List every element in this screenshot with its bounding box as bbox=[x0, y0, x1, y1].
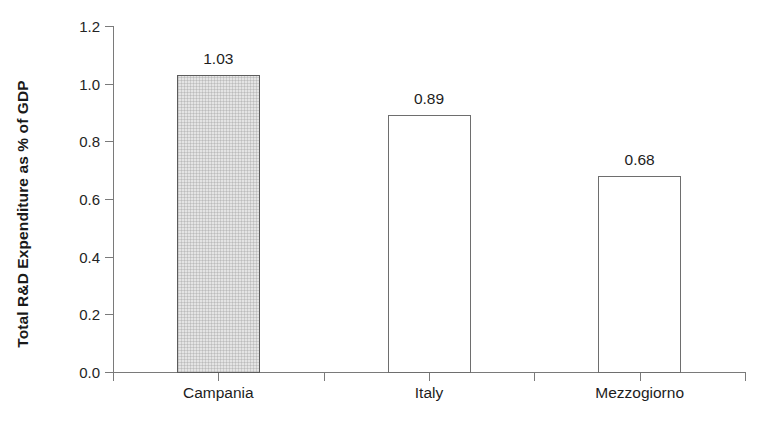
x-axis-label-campania: Campania bbox=[128, 384, 308, 402]
y-axis-tick-label: 1.2 bbox=[56, 18, 100, 35]
y-axis-tick bbox=[105, 141, 113, 142]
y-axis-tick bbox=[105, 257, 113, 258]
bar-value-label: 0.89 bbox=[369, 90, 489, 108]
y-axis-tick-label: 0.6 bbox=[56, 191, 100, 208]
y-axis-tick bbox=[105, 314, 113, 315]
bar-value-label: 1.03 bbox=[158, 50, 278, 68]
y-axis-tick-label: 0.0 bbox=[56, 364, 100, 381]
x-axis-label-mezzogiorno: Mezzogiorno bbox=[550, 384, 730, 402]
y-axis-tick bbox=[105, 26, 113, 27]
x-axis-label-italy: Italy bbox=[339, 384, 519, 402]
x-axis-tick bbox=[640, 373, 641, 381]
y-axis-tick-label: 1.0 bbox=[56, 75, 100, 92]
y-axis-tick-label: 0.8 bbox=[56, 133, 100, 150]
y-axis-tick bbox=[105, 84, 113, 85]
y-axis-tick-label: 0.4 bbox=[56, 248, 100, 265]
x-axis-tick bbox=[218, 373, 219, 381]
x-axis-tick bbox=[745, 373, 746, 381]
x-axis-tick bbox=[113, 373, 114, 381]
y-axis-title: Total R&D Expenditure as % of GDP bbox=[0, 0, 46, 428]
x-axis-tick bbox=[324, 373, 325, 381]
y-axis-tick bbox=[105, 372, 113, 373]
x-axis-tick bbox=[429, 373, 430, 381]
x-axis-tick bbox=[534, 373, 535, 381]
y-axis-line bbox=[113, 26, 114, 373]
bar-value-label: 0.68 bbox=[580, 151, 700, 169]
bar-chart: Total R&D Expenditure as % of GDP 1.21.0… bbox=[0, 0, 764, 428]
bar-mezzogiorno bbox=[598, 176, 681, 373]
bar-italy bbox=[388, 115, 471, 373]
bar-campania bbox=[177, 75, 260, 373]
y-axis-tick-label: 0.2 bbox=[56, 306, 100, 323]
y-axis-tick bbox=[105, 199, 113, 200]
